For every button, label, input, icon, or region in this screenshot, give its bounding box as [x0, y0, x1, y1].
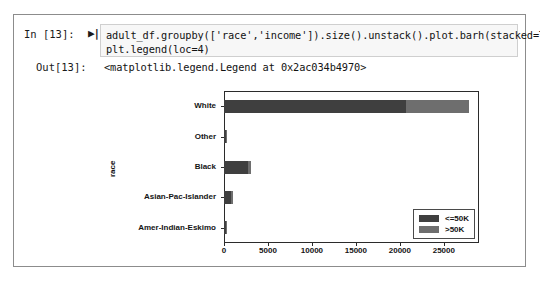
output-prompt-label: Out[13]: [36, 61, 87, 73]
bar-segment-<=50K [224, 191, 231, 204]
y-tick-mark [221, 106, 224, 107]
bar-black [224, 161, 251, 174]
run-cell-icon[interactable]: ▶| [88, 27, 99, 40]
y-tick-mark [221, 167, 224, 168]
x-tick-label: 5000 [259, 246, 277, 255]
code-line-2: plt.legend(loc=4) [106, 42, 513, 56]
x-tick-label: 10000 [301, 246, 323, 255]
code-editor[interactable]: adult_df.groupby(['race','income']).size… [100, 24, 518, 57]
text-output-row: Out[13]: <matplotlib.legend.Legend at 0x… [14, 59, 525, 79]
legend-item: >50K [419, 224, 469, 235]
legend-swatch-icon [419, 215, 439, 222]
bar-segment->50K [226, 221, 227, 234]
bar-segment->50K [406, 100, 469, 113]
legend-label: >50K [445, 225, 464, 234]
axis-spine-bottom [224, 242, 479, 243]
output-repr-text: <matplotlib.legend.Legend at 0x2ac034b49… [104, 61, 366, 73]
input-prompt-label: In [13]: [24, 28, 86, 40]
chart-axes: 0500010000150002000025000 Amer-Indian-Es… [224, 91, 479, 243]
notebook-cell: In [13]: ▶| adult_df.groupby(['race','in… [13, 14, 526, 267]
legend-item: <=50K [419, 213, 469, 224]
bar-other [224, 130, 226, 143]
y-axis-title: race [108, 161, 117, 177]
axis-spine-right [478, 91, 479, 243]
code-input-row: In [13]: ▶| adult_df.groupby(['race','in… [14, 23, 525, 59]
legend-swatch-icon [419, 226, 439, 233]
x-tick-label: 0 [222, 246, 226, 255]
bar-segment->50K [248, 161, 251, 174]
bar-segment-<=50K [224, 100, 406, 113]
chart-legend[interactable]: <=50K>50K [413, 209, 475, 239]
x-tick-label: 15000 [345, 246, 367, 255]
axis-spine-top [224, 91, 479, 92]
y-tick-label: Amer-Indian-Eskimo [138, 223, 216, 232]
bar-segment->50K [231, 191, 233, 204]
matplotlib-figure: 0500010000150002000025000 Amer-Indian-Es… [36, 83, 514, 261]
bar-segment->50K [226, 130, 227, 143]
y-tick-mark [221, 197, 224, 198]
x-tick-label: 20000 [389, 246, 411, 255]
y-tick-mark [221, 137, 224, 138]
y-tick-mark [221, 228, 224, 229]
bar-white [224, 100, 469, 113]
y-tick-label: Black [195, 162, 216, 171]
y-tick-label: Other [195, 132, 216, 141]
y-tick-label: Asian-Pac-Islander [144, 192, 216, 201]
bar-segment-<=50K [224, 161, 248, 174]
bar-asian-pac-islander [224, 191, 233, 204]
code-line-1: adult_df.groupby(['race','income']).size… [106, 28, 513, 42]
y-tick-label: White [194, 101, 216, 110]
legend-label: <=50K [445, 214, 469, 223]
x-tick-label: 25000 [433, 246, 455, 255]
screenshot-root: In [13]: ▶| adult_df.groupby(['race','in… [0, 0, 540, 281]
bar-amer-indian-eskimo [224, 221, 227, 234]
